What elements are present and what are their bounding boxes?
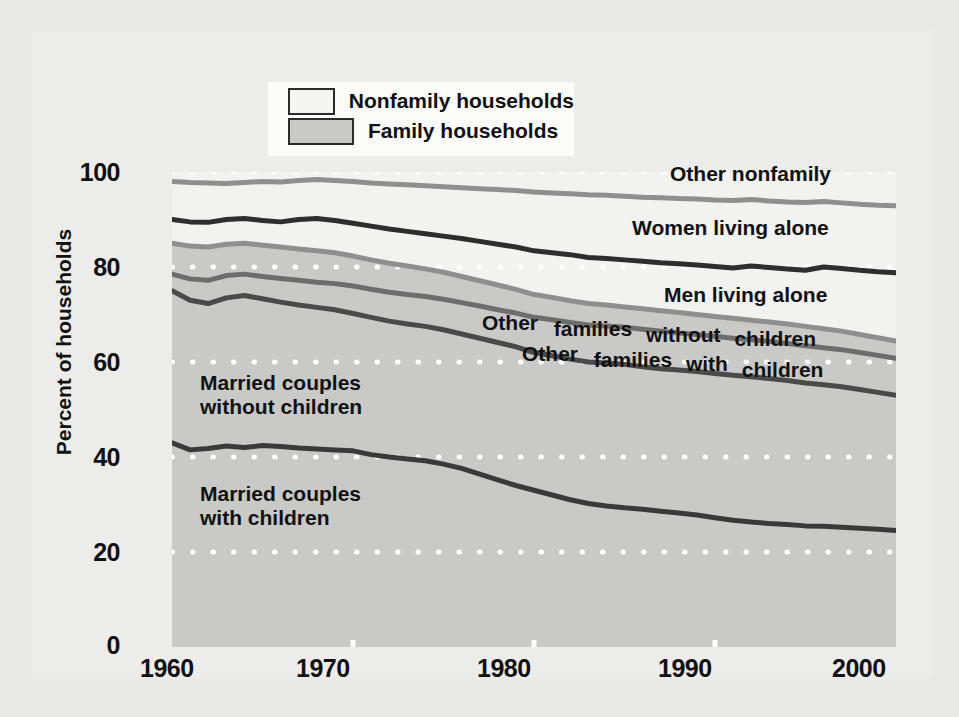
series-label-married-couples-with-children: Married coupleswith children: [200, 482, 430, 529]
label-word: children: [742, 358, 824, 382]
series-label-men-living-alone: Men living alone: [664, 283, 827, 307]
chart-card: 100 80 60 40 20 0 Percent of households …: [32, 30, 932, 678]
label-word: families: [594, 348, 672, 372]
series-label-other-nonfamily: Other nonfamily: [670, 162, 831, 186]
y-axis-title: Percent of households: [52, 162, 76, 522]
xtick-1960: 1960: [140, 654, 194, 683]
label-word: Other: [522, 342, 578, 366]
xtick-1970: 1970: [296, 654, 350, 683]
xtick-1980: 1980: [477, 654, 531, 683]
ytick-0: 0: [60, 631, 120, 660]
legend-swatch-nonfamily: [288, 88, 335, 115]
xtick-2000: 2000: [832, 654, 886, 683]
legend-label-nonfamily: Nonfamily households: [349, 89, 574, 113]
legend-swatch-family: [288, 118, 354, 145]
legend: Nonfamily households Family households: [268, 82, 574, 156]
ytick-20: 20: [60, 538, 120, 567]
series-label-married-couples-without-children: Married coupleswithout children: [200, 371, 430, 418]
series-label-other-families-with-children: Other families with children: [522, 342, 823, 366]
label-word: Other: [482, 311, 538, 335]
chart-figure: 100 80 60 40 20 0 Percent of households …: [0, 0, 959, 717]
legend-item-family: Family households: [288, 116, 574, 146]
legend-item-nonfamily: Nonfamily households: [288, 86, 574, 116]
legend-label-family: Family households: [368, 119, 558, 143]
label-word: with: [686, 352, 728, 376]
label-word: families: [554, 317, 632, 341]
xtick-1990: 1990: [658, 654, 712, 683]
series-label-women-living-alone: Women living alone: [632, 216, 829, 240]
series-label-other-families-without-children: Other families without children: [482, 313, 816, 337]
